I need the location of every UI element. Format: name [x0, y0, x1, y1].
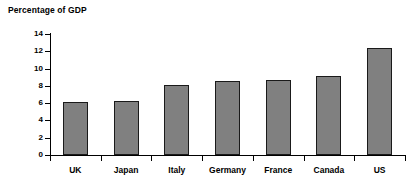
x-axis-tick — [151, 156, 152, 161]
x-axis-label-italy: Italy — [168, 166, 185, 175]
x-axis-label-uk: UK — [69, 166, 81, 175]
y-axis-tick — [45, 34, 50, 35]
y-axis-tick — [45, 86, 50, 87]
y-axis-tick-label: 6 — [13, 99, 43, 107]
y-axis-line — [50, 33, 51, 156]
x-axis-tick — [405, 156, 406, 161]
y-axis-tick-label: 8 — [13, 82, 43, 90]
x-axis-label-france: France — [264, 166, 292, 175]
x-axis-tick — [253, 156, 254, 161]
y-axis-tick-label: 12 — [13, 47, 43, 55]
x-axis-label-canada: Canada — [314, 166, 345, 175]
x-axis-tick — [50, 156, 51, 161]
y-axis-tick-label: 14 — [13, 30, 43, 38]
y-axis-tick — [45, 103, 50, 104]
x-axis-tick — [354, 156, 355, 161]
x-axis-tick — [202, 156, 203, 161]
bar-uk — [63, 102, 88, 155]
bar-france — [266, 80, 291, 155]
y-axis-tick — [45, 120, 50, 121]
bar-italy — [164, 85, 189, 155]
y-axis-tick-label: 10 — [13, 65, 43, 73]
x-axis-line — [50, 155, 406, 156]
bar-germany — [215, 81, 240, 155]
y-axis-tick-label: 4 — [13, 116, 43, 124]
bar-canada — [316, 76, 341, 155]
y-axis-tick-label: 2 — [13, 134, 43, 142]
y-axis-tick — [45, 69, 50, 70]
bar-chart: Percentage of GDP 02468101214 UKJapanIta… — [0, 0, 413, 189]
x-axis-tick — [304, 156, 305, 161]
x-axis-label-germany: Germany — [209, 166, 246, 175]
chart-title: Percentage of GDP — [8, 6, 87, 15]
x-axis-label-japan: Japan — [114, 166, 139, 175]
y-axis-tick-label: 0 — [13, 151, 43, 159]
x-axis-tick — [101, 156, 102, 161]
y-axis-tick — [45, 51, 50, 52]
y-axis-tick — [45, 138, 50, 139]
bar-us — [367, 48, 392, 155]
x-axis-label-us: US — [374, 166, 386, 175]
bar-japan — [114, 101, 139, 155]
